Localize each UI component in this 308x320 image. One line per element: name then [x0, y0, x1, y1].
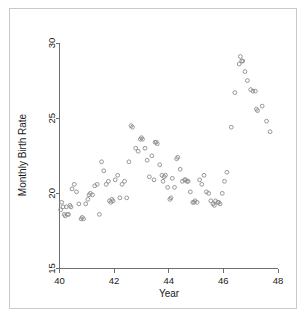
data-point — [246, 79, 250, 83]
data-point — [60, 200, 64, 204]
data-point — [125, 196, 129, 200]
data-point — [173, 185, 177, 189]
y-tick-label: 25 — [46, 113, 57, 124]
y-tick-label: 15 — [46, 263, 57, 274]
data-point — [100, 160, 104, 164]
data-point — [70, 187, 74, 191]
data-point — [127, 160, 131, 164]
data-point — [243, 70, 247, 74]
data-point — [75, 190, 79, 194]
data-point — [220, 191, 224, 195]
data-point — [136, 149, 140, 153]
data-point — [202, 173, 206, 177]
data-point — [143, 146, 147, 150]
y-axis-title: Monthly Birth Rate — [17, 113, 28, 196]
data-point — [72, 182, 76, 186]
scatter-plot-figure: 15202530 4042444648 Year Monthly Birth R… — [0, 0, 308, 320]
y-axis: 15202530 — [46, 38, 60, 274]
data-point — [86, 197, 90, 201]
data-point — [178, 167, 182, 171]
data-point — [166, 185, 170, 189]
data-point — [150, 154, 154, 158]
x-tick-label: 40 — [54, 275, 65, 286]
y-tick-label: 20 — [46, 188, 57, 199]
data-point — [188, 190, 192, 194]
data-point — [200, 182, 204, 186]
data-point — [170, 176, 174, 180]
x-tick-label: 46 — [218, 275, 229, 286]
data-point — [238, 55, 242, 59]
data-point — [102, 169, 106, 173]
data-point — [233, 91, 237, 95]
y-tick-label: 30 — [46, 38, 57, 49]
data-point — [97, 212, 101, 216]
x-axis-title: Year — [159, 288, 180, 299]
data-point — [84, 202, 88, 206]
data-point — [77, 202, 81, 206]
data-point — [116, 173, 120, 177]
data-point — [225, 170, 229, 174]
x-tick-label: 42 — [109, 275, 120, 286]
data-point — [260, 104, 264, 108]
data-point — [118, 196, 122, 200]
y-tick-group: 15202530 — [46, 38, 60, 274]
data-point — [268, 130, 272, 134]
x-tick-label: 48 — [273, 275, 284, 286]
data-point — [158, 163, 162, 167]
data-points-layer — [59, 55, 272, 221]
data-point — [253, 89, 257, 93]
x-tick-group: 4042444648 — [54, 269, 283, 286]
chart-canvas: 15202530 4042444648 Year Monthly Birth R… — [0, 0, 308, 320]
x-axis: 4042444648 — [54, 269, 283, 286]
data-point — [198, 178, 202, 182]
data-point — [161, 179, 165, 183]
x-tick-label: 44 — [163, 275, 174, 286]
data-point — [113, 178, 117, 182]
data-point — [223, 179, 227, 183]
data-point — [265, 119, 269, 123]
data-point — [152, 178, 156, 182]
data-point — [229, 125, 233, 129]
data-point — [147, 175, 151, 179]
data-point — [145, 158, 149, 162]
data-point — [106, 179, 110, 183]
data-point — [123, 179, 127, 183]
